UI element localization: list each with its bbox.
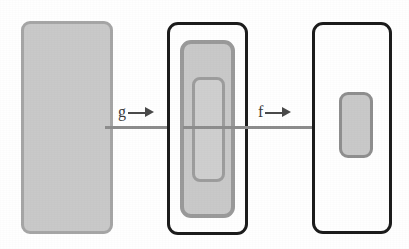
map-symbol-g: g [118,104,126,121]
right-arrow-icon [128,107,154,119]
left-filled-set [21,21,113,234]
map-label-f: f [258,104,291,121]
right-subset [339,92,373,158]
map-label-g: g [118,104,154,121]
right-arrow-icon [265,107,291,119]
middle-subset-inner [192,77,225,182]
map-symbol-f: f [258,104,263,121]
function-composition-figure: g f [0,0,409,249]
